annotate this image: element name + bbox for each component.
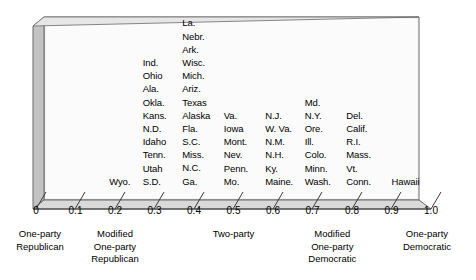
axis-tick-label: 0.6 bbox=[266, 205, 280, 216]
axis-category-label-line: Two-party bbox=[213, 228, 255, 241]
axis-labels: 00.10.20.30.40.50.60.70.80.91.0One-party… bbox=[0, 0, 476, 280]
axis-tick-label: 1.0 bbox=[424, 205, 438, 216]
axis-category-label-line: Democratic bbox=[403, 241, 451, 254]
axis-category-label-line: One-party bbox=[403, 228, 451, 241]
axis-category-label-line: One-party bbox=[16, 228, 64, 241]
axis-category-label-line: Modified bbox=[308, 228, 356, 241]
axis-category-label-line: Modified bbox=[91, 228, 139, 241]
axis-category-label: ModifiedOne-partyRepublican bbox=[91, 228, 139, 266]
axis-tick-label: 0.2 bbox=[108, 205, 122, 216]
axis-tick-label: 0.5 bbox=[227, 205, 241, 216]
axis-category-label-line: One-party bbox=[91, 241, 139, 254]
axis-tick-label: 0.7 bbox=[306, 205, 320, 216]
axis-category-label: One-partyDemocratic bbox=[403, 228, 451, 253]
chart-figure: Wyo.Ind.OhioAla.Okla.Kans.N.D.IdahoTenn.… bbox=[0, 0, 476, 280]
axis-tick-label: 0.9 bbox=[385, 205, 399, 216]
axis-category-label: One-partyRepublican bbox=[16, 228, 64, 253]
axis-tick-label: 0.1 bbox=[69, 205, 83, 216]
axis-tick-label: 0.3 bbox=[148, 205, 162, 216]
axis-category-label-line: Republican bbox=[91, 253, 139, 266]
axis-category-label-line: Democratic bbox=[308, 253, 356, 266]
axis-tick-label: 0.4 bbox=[187, 205, 201, 216]
axis-category-label-line: One-party bbox=[308, 241, 356, 254]
axis-category-label: Two-party bbox=[213, 228, 255, 241]
axis-category-label-line: Republican bbox=[16, 241, 64, 254]
axis-tick-label: 0.8 bbox=[345, 205, 359, 216]
axis-category-label: ModifiedOne-partyDemocratic bbox=[308, 228, 356, 266]
axis-tick-label: 0 bbox=[33, 205, 39, 216]
